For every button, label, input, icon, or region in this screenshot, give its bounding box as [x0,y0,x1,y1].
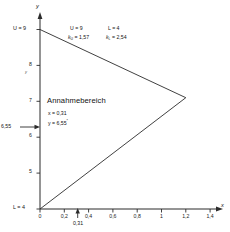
y-tick-label-7: 7 [22,98,32,103]
y-axis-name: y [36,4,39,10]
x-tick-label-0-4: 0,4 [83,214,95,219]
point-y-value: y = 6,55* [48,120,68,126]
y-axis-name-secondary: y [25,70,27,74]
x-tick-label-1-2: 1,2 [180,214,192,219]
annotation-upper-limit: U = 9 [70,26,83,31]
annotation-lower-limit: L = 4 [108,26,120,31]
y-value-pointer-head [35,125,41,129]
acceptance-region-title: Annahmebereich [47,97,106,105]
acceptance-region-chart: y x U = 9 L = 4 5 6 7 8 y 6,55 0 0,2 0,4… [0,0,230,232]
x-tick-label-0-2: 0,2 [58,214,70,219]
k-upper-subscript: U [71,37,74,41]
y-tick-label-5: 5 [22,169,32,174]
point-y-text: y = 6,55 [48,120,67,126]
x-tick-label-1: 1 [156,214,168,219]
x-tick-marks [40,209,210,213]
x-axis-name: x [221,203,224,209]
point-x-value: x = 0,31 [48,111,67,116]
y-tick-label-6: 6 [22,133,32,138]
y-axis-arrow [38,12,43,19]
annotation-k-lower: kL = 2,54 [106,35,127,41]
y-axis-label-lower-limit: L = 4 [13,205,25,210]
y-axis-label-upper-limit: U = 9 [13,26,26,31]
y-tick-marks [37,30,41,210]
y-tick-label-8: 8 [22,62,32,67]
x-tick-label-0: 0 [34,214,46,219]
y-marker-label: 6,55 [1,124,11,129]
x-tick-label-0-6: 0,6 [107,214,119,219]
x-marker-label: 0,31 [70,221,86,226]
k-lower-value: = 2,54 [111,34,127,40]
x-tick-label-0-8: 0,8 [131,214,143,219]
point-y-star: * [67,119,68,123]
k-lower-subscript: L [109,37,111,41]
x-tick-label-1-4: 1,4 [204,214,216,219]
k-upper-value: = 1,57 [73,34,89,40]
annotation-k-upper: kU = 1,57 [68,35,89,41]
